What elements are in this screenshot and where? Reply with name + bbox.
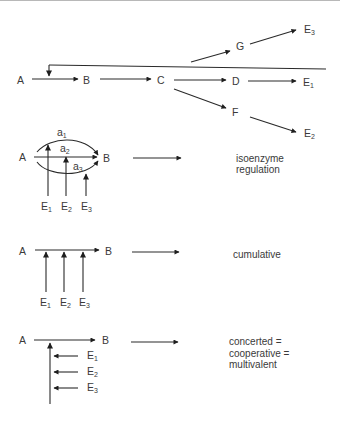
label-a2: a2 xyxy=(60,142,70,155)
node-E3: E3 xyxy=(304,23,315,36)
substrate-A: A xyxy=(19,245,26,257)
product-B: B xyxy=(103,152,110,164)
node-F: F xyxy=(232,106,238,118)
node-B: B xyxy=(83,74,90,86)
arrow-G-E3 xyxy=(250,30,296,44)
node-D: D xyxy=(232,75,240,87)
effector-E2: E2 xyxy=(60,296,71,309)
effector-E3: E3 xyxy=(79,296,90,309)
arrow-C-G xyxy=(191,51,230,62)
arrow-C-F xyxy=(174,89,226,108)
effector-E1: E1 xyxy=(41,200,52,213)
substrate-A: A xyxy=(19,151,26,163)
isoenzyme-a3-arc xyxy=(37,161,98,174)
label-a1: a1 xyxy=(57,126,67,139)
substrate-A: A xyxy=(19,334,26,346)
effector-E2: E2 xyxy=(87,365,98,378)
effector-E1: E1 xyxy=(40,296,51,309)
branched-pathway: A B C D F G E1 E2 E3 xyxy=(17,23,326,140)
description-line-3: multivalent xyxy=(229,359,277,370)
product-B: B xyxy=(102,334,109,346)
effector-E3: E3 xyxy=(87,381,98,394)
effector-E1: E1 xyxy=(87,349,98,362)
feedback-line xyxy=(49,65,326,69)
panel-isoenzyme: A B a1 a2 a3 E1 E2 E3 isoenzyme regulati… xyxy=(19,126,284,213)
label-a3: a3 xyxy=(73,160,83,173)
description-line-1: cumulative xyxy=(233,249,281,260)
node-C: C xyxy=(157,74,165,86)
node-E2: E2 xyxy=(304,127,315,140)
node-G: G xyxy=(236,40,244,52)
product-B: B xyxy=(105,245,112,257)
effector-E2: E2 xyxy=(61,200,72,213)
description-line-2: regulation xyxy=(236,164,280,175)
node-A: A xyxy=(17,74,24,86)
description-line-1: concerted = xyxy=(229,336,282,347)
panel-concerted: A B E1 E2 E3 concerted = cooperative = m… xyxy=(19,334,289,404)
effector-E3: E3 xyxy=(81,200,92,213)
node-E1: E1 xyxy=(303,76,314,89)
panel-cumulative: A B E1 E2 E3 cumulative xyxy=(19,245,281,309)
description-line-2: cooperative = xyxy=(229,348,289,359)
arrow-F-E2 xyxy=(250,117,296,132)
description-line-1: isoenzyme xyxy=(236,153,284,164)
feedback-inhibition-diagram: A B C D F G E1 E2 E3 A B a1 a2 a3 E1 E2 xyxy=(0,0,340,424)
